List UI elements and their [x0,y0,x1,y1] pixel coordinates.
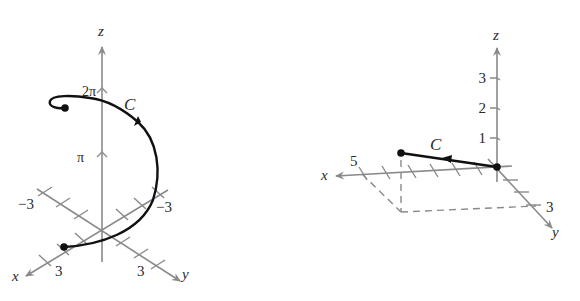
y-tick-3: 3 [546,199,554,215]
y-axis-ticks [503,180,541,205]
y-tick-3: 3 [137,263,145,279]
y-tick-neg3: −3 [18,196,34,212]
projection-lines [362,160,536,212]
y-axis-label: y [550,224,559,240]
x-tick-neg3: −3 [156,199,172,215]
diagram-canvas: z π 2π C −3 −3 3 3 x y [0,0,580,301]
x-tick-3: 3 [55,263,63,279]
z-tick-3: 3 [479,70,487,86]
y-axis-label: y [180,266,189,282]
x-tick-5: 5 [350,153,358,169]
segment-figure: z 1 2 3 C 5 x 3 y [320,27,559,240]
z-tick-2pi: 2π [82,84,96,99]
z-axis-label: z [492,27,499,43]
z-tick-1: 1 [479,130,487,146]
curve-label: C [124,95,136,114]
x-axis-label: x [320,167,328,183]
end-point [397,149,405,157]
z-axis-label: z [97,23,104,39]
start-point [493,163,501,171]
z-tick-2: 2 [479,100,487,116]
x-axis-label: x [11,268,19,284]
start-point [60,243,68,251]
z-axis-ticks [490,78,500,140]
end-point [61,104,69,112]
helix-curve [50,96,158,247]
curve-label: C [430,135,442,154]
helix-figure: z π 2π C −3 −3 3 3 x y [11,23,189,284]
z-tick-pi: π [77,150,84,165]
